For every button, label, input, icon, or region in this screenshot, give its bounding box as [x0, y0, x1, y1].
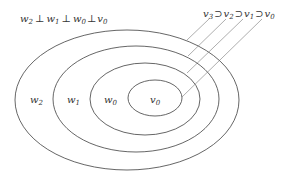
containment-relation: v3⊃v2⊃v1⊃v0 — [203, 8, 275, 21]
region-label-w1: w1 — [67, 94, 80, 107]
nested-ellipses-diagram: w2⊥w1⊥w0⊥v0 v3⊃v2⊃v1⊃v0 w2 w1 w0 v0 — [0, 0, 288, 175]
leader-line-v3 — [187, 19, 209, 40]
region-label-v0: v0 — [150, 94, 161, 107]
leader-line-v0 — [182, 19, 262, 97]
leader-line-v2 — [188, 19, 226, 56]
ellipse-v3 — [15, 30, 239, 170]
region-label-w0: w0 — [104, 94, 118, 107]
orthogonality-relation: w2⊥w1⊥w0⊥v0 — [20, 13, 108, 26]
region-label-w2: w2 — [30, 94, 44, 107]
